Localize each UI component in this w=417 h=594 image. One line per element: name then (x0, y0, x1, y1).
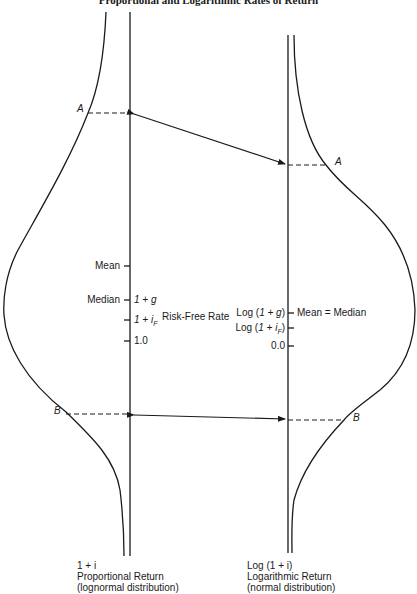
label-one-plus-if: 1 + iF (134, 314, 157, 330)
left-caption-var: 1 + i (77, 560, 179, 571)
right-caption-line1: Logarithmic Return (247, 571, 335, 582)
label-log-one-plus-g: Log (1 + g) (222, 307, 285, 319)
label-risk-free-rate: Risk-Free Rate (162, 311, 229, 323)
normal-curve (292, 35, 415, 553)
left-point-a: A (77, 103, 84, 115)
label-zero: 0.0 (240, 340, 285, 352)
label-mean: Mean (60, 260, 120, 272)
arrow-a (134, 114, 285, 164)
left-caption-line2: (lognormal distribution) (77, 582, 179, 593)
left-caption-line1: Proportional Return (77, 571, 179, 582)
right-caption-var: Log (1 + i) (247, 560, 335, 571)
right-caption: Log (1 + i) Logarithmic Return (normal d… (247, 560, 335, 593)
label-log-one-plus-if: Log (1 + iF) (222, 322, 285, 338)
lognormal-curve (4, 12, 124, 556)
right-point-a: A (335, 156, 342, 168)
arrow-b (134, 415, 285, 419)
label-mean-eq-median: Mean = Median (297, 307, 366, 319)
label-median: Median (60, 294, 120, 306)
label-one: 1.0 (134, 335, 148, 347)
label-one-plus-g: 1 + g (134, 294, 157, 306)
left-caption: 1 + i Proportional Return (lognormal dis… (77, 560, 179, 593)
right-point-b: B (353, 412, 360, 424)
right-caption-line2: (normal distribution) (247, 582, 335, 593)
left-point-b: B (54, 405, 61, 417)
